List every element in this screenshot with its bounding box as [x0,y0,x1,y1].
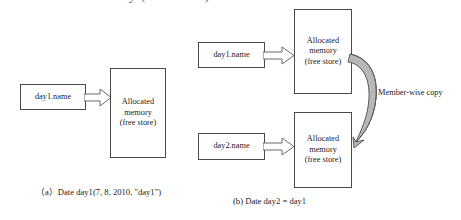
panel-a-heap-line-2: memory [124,108,152,119]
panel-a-variable-box: day1.name [20,84,86,110]
panel-a-variable-label: day1.name [35,92,71,103]
panel-a-block-arrow-right-icon [84,88,112,107]
panel-b-variable-box-bottom: day2.name [198,133,265,160]
panel-b-heap-bottom-line-3: (free store) [305,155,342,166]
panel-b-heap-top-line-1: Allocated [307,36,339,47]
panel-b-heap-bottom-line-2: memory [309,145,337,156]
member-wise-copy-label: Member-wise copy [378,88,443,97]
panel-b-variable-box-top: day1.name [198,42,265,68]
panel-a-caption: （a）Date day1(7, 8, 2010, "day1") [36,185,161,197]
panel-b-heap-top-line-3: (free store) [305,57,342,68]
panel-b-variable-top-label: day1.name [213,50,249,61]
panel-a-heap-line-3: (free store) [120,118,157,129]
figure-canvas: Allocated memory (free store) day1.name … [0,0,461,220]
panel-b-block-arrow-right-bottom-icon [263,137,295,156]
panel-b-variable-bottom-label: day2.name [213,141,249,152]
panel-a-heap-box: Allocated memory (free store) [110,68,166,158]
panel-b-block-arrow-right-top-icon [263,46,295,65]
panel-b-heap-top-line-2: memory [309,46,337,57]
panel-a-heap-line-1: Allocated [122,97,154,108]
panel-b-caption: (b) Date day2 = day1 [233,196,306,206]
cropped-heading-sliver: Allocated memory (free store) [24,0,224,3]
panel-b-heap-bottom-line-1: Allocated [307,134,339,145]
